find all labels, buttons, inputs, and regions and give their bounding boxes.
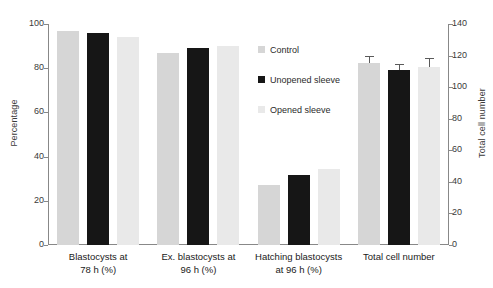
bar bbox=[288, 175, 310, 245]
bar bbox=[117, 37, 139, 245]
legend-swatch-icon bbox=[258, 76, 265, 83]
bar bbox=[217, 46, 239, 245]
y-tick-mark-left bbox=[44, 112, 48, 113]
y-tick-mark-left bbox=[44, 24, 48, 25]
plot-area bbox=[48, 24, 449, 245]
y-tick-mark-right bbox=[449, 24, 453, 25]
y-tick-label-right: 40 bbox=[452, 177, 478, 186]
error-bar bbox=[399, 65, 400, 70]
y-tick-mark-left bbox=[44, 68, 48, 69]
y-axis-left-ticks: 020406080100 bbox=[18, 0, 44, 288]
legend-label: Unopened sleeve bbox=[270, 75, 340, 85]
chart-legend: ControlUnopened sleeveOpened sleeve bbox=[258, 44, 378, 134]
legend-item: Control bbox=[258, 44, 378, 55]
error-bar bbox=[429, 59, 430, 67]
bar bbox=[57, 31, 79, 245]
y-tick-mark-right bbox=[449, 213, 453, 214]
legend-item: Unopened sleeve bbox=[258, 74, 378, 85]
y-tick-label-left: 60 bbox=[18, 107, 44, 116]
legend-label: Control bbox=[270, 45, 299, 55]
y-tick-label-left: 100 bbox=[18, 19, 44, 28]
bar bbox=[187, 48, 209, 245]
y-tick-mark-right bbox=[449, 87, 453, 88]
bar bbox=[157, 53, 179, 245]
bar bbox=[87, 33, 109, 245]
legend-swatch-icon bbox=[258, 46, 265, 53]
bars-layer bbox=[48, 24, 449, 245]
y-tick-label-right: 0 bbox=[452, 240, 478, 249]
error-bar-cap bbox=[425, 58, 434, 59]
x-axis-category-label-line: Total cell number bbox=[339, 250, 459, 263]
y-tick-label-right: 140 bbox=[452, 19, 478, 28]
bar bbox=[418, 67, 440, 245]
x-axis-category-label: Total cell number bbox=[339, 250, 459, 263]
y-tick-label-right: 60 bbox=[452, 145, 478, 154]
error-bar-cap bbox=[395, 64, 404, 65]
y-tick-label-left: 20 bbox=[18, 196, 44, 205]
legend-label: Opened sleeve bbox=[270, 105, 331, 115]
legend-item: Opened sleeve bbox=[258, 104, 378, 115]
y-tick-label-right: 100 bbox=[452, 82, 478, 91]
y-tick-label-right: 120 bbox=[452, 51, 478, 60]
y-tick-label-left: 0 bbox=[18, 240, 44, 249]
y-tick-mark-left bbox=[44, 245, 48, 246]
bar bbox=[388, 70, 410, 245]
y-tick-mark-right bbox=[449, 119, 453, 120]
x-axis-category-label-line: at 96 h (%) bbox=[239, 263, 359, 276]
bar bbox=[258, 185, 280, 245]
y-tick-label-left: 80 bbox=[18, 63, 44, 72]
y-axis-right-ticks: 020406080100120140 bbox=[452, 0, 478, 288]
y-tick-mark-left bbox=[44, 157, 48, 158]
y-tick-mark-right bbox=[449, 182, 453, 183]
y-tick-mark-right bbox=[449, 56, 453, 57]
y-tick-label-right: 80 bbox=[452, 114, 478, 123]
bar-chart: Percentage Total cell number 02040608010… bbox=[0, 0, 493, 288]
legend-swatch-icon bbox=[258, 106, 265, 113]
y-tick-label-left: 40 bbox=[18, 152, 44, 161]
y-tick-mark-right bbox=[449, 245, 453, 246]
y-tick-label-right: 20 bbox=[452, 208, 478, 217]
bar bbox=[318, 169, 340, 245]
y-axis-right-title: Total cell number bbox=[477, 73, 487, 173]
y-tick-mark-right bbox=[449, 150, 453, 151]
y-tick-mark-left bbox=[44, 201, 48, 202]
x-axis-category-labels: Blastocysts at78 h (%)Ex. blastocysts at… bbox=[48, 250, 449, 288]
